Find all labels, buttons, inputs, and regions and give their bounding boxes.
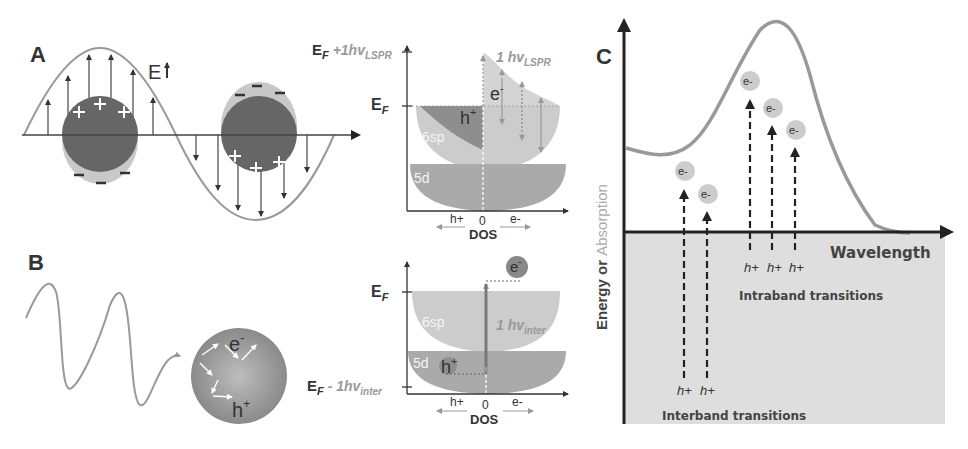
svg-text:e-: e- xyxy=(789,124,799,136)
nanoparticle-right xyxy=(221,96,297,172)
svg-text:e-: e- xyxy=(766,102,776,114)
x-axis-label: Wavelength xyxy=(830,244,931,262)
b-dos-zero-label: 0 xyxy=(482,398,489,412)
field-label: E xyxy=(148,61,161,83)
svg-text:h+: h+ xyxy=(744,260,759,275)
dos-diagram-a: EF +1hvLSPR EF 1 hvLSPR 6sp 5d h+ e- h+ … xyxy=(312,41,568,242)
svg-text:h+: h+ xyxy=(767,260,782,275)
figure-canvas: A xyxy=(0,0,968,449)
dos-holes-label: h+ xyxy=(450,212,464,226)
b-band-5d-label: 5d xyxy=(413,355,429,371)
svg-text:h+: h+ xyxy=(789,260,804,275)
b-dos-axis-title: DOS xyxy=(470,412,499,427)
b-dos-electrons-label: e- xyxy=(512,395,523,409)
interband-caption: Interband transitions xyxy=(662,409,806,423)
electron-markers xyxy=(675,71,806,204)
band-5d-label: 5d xyxy=(414,170,430,186)
panel-b-label: B xyxy=(28,250,44,275)
svg-text:e-: e- xyxy=(743,75,753,87)
b-fermi-level-label: EF xyxy=(371,283,389,303)
svg-text:h+: h+ xyxy=(677,383,692,398)
dos-electrons-label: e- xyxy=(510,212,521,226)
panel-a: A xyxy=(22,42,358,220)
band-5d xyxy=(410,164,566,211)
dos-axis-title: DOS xyxy=(469,227,498,242)
b-band-6sp-label: 6sp xyxy=(422,314,445,330)
intraband-caption: Intraband transitions xyxy=(739,289,883,303)
svg-text:e-: e- xyxy=(678,165,688,177)
b-dos-holes-label: h+ xyxy=(450,395,464,409)
svg-text:e-: e- xyxy=(701,188,711,200)
top-energy-label: EF +1hvLSPR xyxy=(312,41,392,61)
fermi-level-label: EF xyxy=(371,96,389,116)
y-axis-label: Energy or Absorption xyxy=(593,184,610,330)
panel-a-label: A xyxy=(30,42,46,67)
incident-light-wave xyxy=(26,284,180,405)
panel-b: B e- h+ xyxy=(26,250,287,424)
photon-energy-label: 1 hvLSPR xyxy=(496,49,551,68)
b-bottom-energy-label: EF - 1hvinter xyxy=(307,377,383,397)
dos-zero-label: 0 xyxy=(479,214,486,228)
absorption-spectrum-curve xyxy=(626,22,910,233)
panel-c-label: C xyxy=(596,44,612,69)
svg-text:h+: h+ xyxy=(700,383,715,398)
dos-diagram-b: EF EF - 1hvinter 1 hvinter 6sp 5d h+ e- … xyxy=(307,256,568,427)
panel-c: C e- e- e- e- e- xyxy=(593,22,950,424)
band-6sp-label: 6sp xyxy=(422,129,445,145)
